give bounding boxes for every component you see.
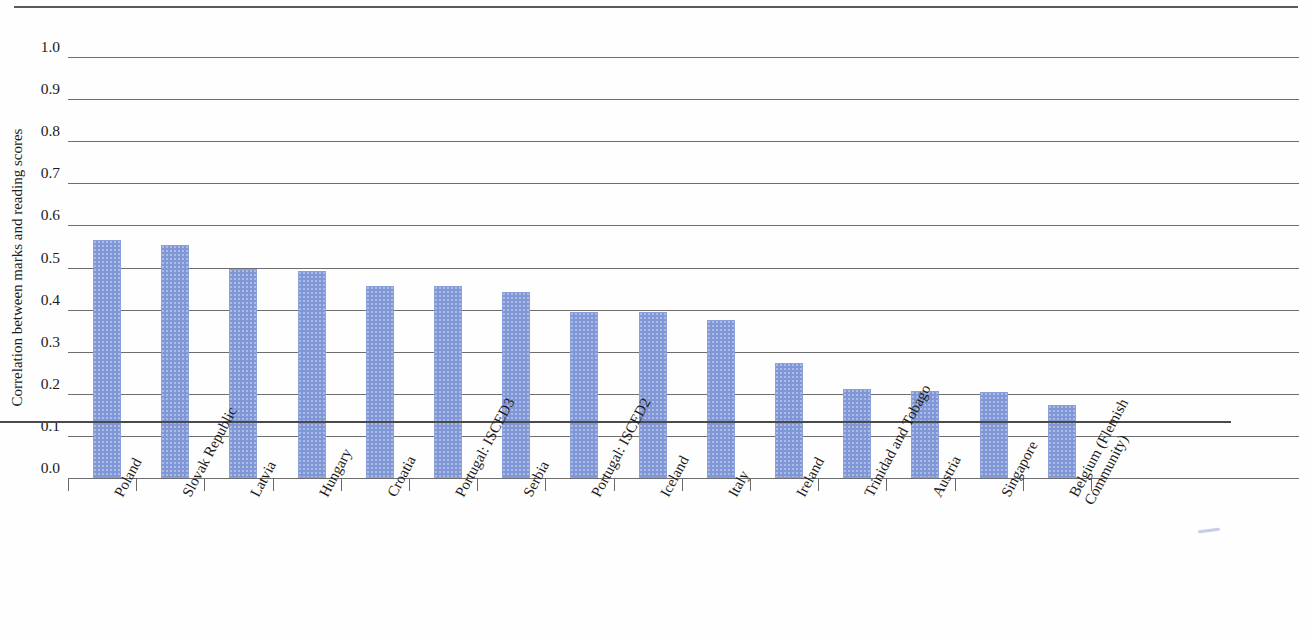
bar [298,271,326,478]
gridline: 0.6 [68,225,1299,226]
bar [366,286,394,478]
bar [639,312,667,478]
y-axis-tick-label: 0.6 [41,207,60,226]
x-axis-tick [955,478,956,491]
y-axis-tick-label: 0.7 [41,165,60,184]
gridline: 0.8 [68,141,1299,142]
bar [434,286,462,478]
x-axis-tick [614,478,615,491]
bar [93,240,121,478]
x-axis-tick [545,478,546,491]
x-axis-tick [68,478,69,491]
x-axis-tick [204,478,205,491]
bar [502,292,530,479]
gridline: 0.7 [68,183,1299,184]
bar [980,392,1008,478]
top-divider-rule [14,6,1298,8]
bar [229,269,257,478]
bar [161,245,189,478]
gridline: 0.9 [68,99,1299,100]
bar [707,320,735,478]
y-axis-tick-label: 0.3 [41,333,60,352]
bar [1048,405,1076,478]
y-axis-tick-label: 0.2 [41,375,60,394]
x-axis-labels: PolandSlovak RepublicLatviaHungaryCroati… [0,492,1312,637]
bar [843,389,871,478]
y-axis-tick-label: 0.5 [41,249,60,268]
y-axis-tick-label: 0.4 [41,291,60,310]
y-axis-tick-label: 0.8 [41,123,60,142]
chart-page: Correlation between marks and reading sc… [0,0,1312,637]
y-axis-tick-label: 0.9 [41,81,60,100]
x-axis-tick [273,478,274,491]
gridline: 1.0 [68,57,1299,58]
y-axis-title: Correlation between marks and reading sc… [6,57,28,478]
x-axis-line [0,421,1231,423]
y-axis-tick-label: 0.0 [41,460,60,479]
bar [570,312,598,478]
x-axis-tick [886,478,887,491]
y-axis-tick-label: 1.0 [41,39,60,58]
